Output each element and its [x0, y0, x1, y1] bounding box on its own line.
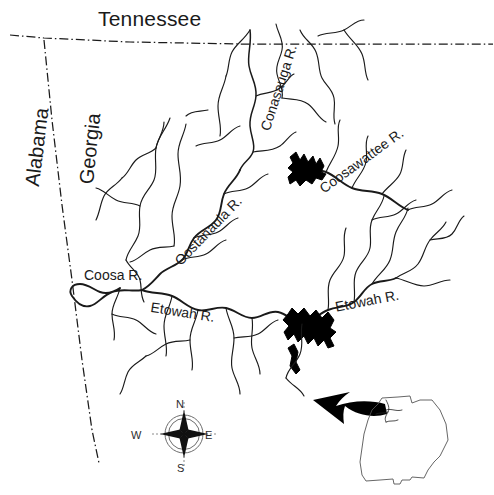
west-trib-6 — [96, 178, 122, 220]
west-trib-3 — [96, 188, 140, 206]
allatoona-lake-reservoir — [283, 308, 336, 348]
east-trib-8 — [430, 216, 464, 240]
label-tennessee: Tennessee — [98, 8, 201, 29]
east-trib-2 — [372, 208, 408, 284]
compass-label-west: W — [131, 429, 141, 441]
coosawattee-trib-b — [382, 150, 406, 194]
compass-label-east: E — [205, 429, 212, 441]
alabama-georgia-border — [44, 40, 99, 463]
conasauga-trib-c — [253, 132, 296, 152]
upper-left-stream-4 — [186, 110, 208, 116]
south-trib-4 — [146, 340, 190, 356]
east-trib-6 — [396, 278, 450, 286]
map-figure: .riv { fill:none; stroke:#1a1a1a; stroke… — [0, 0, 494, 495]
west-trib-4 — [122, 148, 156, 178]
south-trib-2 — [226, 308, 240, 394]
south-trib-6 — [120, 356, 146, 394]
map-canvas: .riv { fill:none; stroke:#1a1a1a; stroke… — [0, 0, 494, 495]
compass-label-south: S — [177, 462, 184, 474]
oostanaula-river — [142, 170, 240, 290]
south-trib-3 — [251, 318, 260, 374]
upper-left-stream-2 — [196, 126, 240, 146]
coosa-river — [70, 284, 142, 306]
georgia-inset — [313, 392, 448, 484]
georgia-outline — [360, 396, 448, 484]
river-network — [70, 20, 464, 396]
west-trib-1 — [126, 118, 170, 260]
upper-left-stream-3 — [218, 76, 226, 136]
upper-left-stream-1 — [156, 122, 164, 148]
label-coosa-river: Coosa R. — [84, 268, 142, 282]
conasauga-river — [240, 30, 256, 170]
compass-label-north: N — [176, 398, 184, 410]
west-trib-2 — [172, 124, 186, 246]
conasauga-trib-a — [226, 30, 250, 76]
east-trib-3 — [396, 222, 446, 278]
coosawattee-trib-d — [326, 120, 340, 172]
headwater-r4 — [344, 30, 368, 80]
headwater-r5 — [282, 98, 326, 122]
locator-arrow — [313, 392, 387, 424]
south-trib-8 — [286, 378, 304, 396]
south-trib-10 — [112, 314, 156, 334]
west-trib-7 — [130, 246, 174, 262]
state-boundaries — [10, 35, 493, 463]
headwater-r3 — [318, 20, 364, 36]
tennessee-georgia-border — [10, 35, 493, 44]
south-trib-7 — [234, 320, 278, 338]
east-trib-7 — [372, 200, 416, 220]
